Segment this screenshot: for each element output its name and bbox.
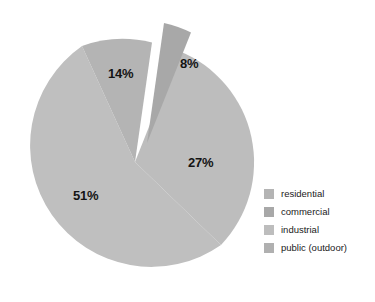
legend-swatch-icon: [264, 207, 274, 217]
legend-label-industrial: industrial: [281, 225, 319, 235]
legend-item-commercial[interactable]: commercial: [264, 203, 372, 221]
chart-legend: residential commercial industrial public…: [264, 185, 372, 257]
legend-label-public-outdoor: public (outdoor): [281, 243, 347, 253]
pie-label-residential: 14%: [108, 66, 133, 81]
pie-label-commercial: 8%: [180, 56, 198, 71]
legend-item-residential[interactable]: residential: [264, 185, 372, 203]
pie-label-industrial: 27%: [188, 155, 213, 170]
legend-label-commercial: commercial: [281, 207, 330, 217]
legend-label-residential: residential: [281, 189, 324, 199]
legend-item-industrial[interactable]: industrial: [264, 221, 372, 239]
legend-swatch-icon: [264, 225, 274, 235]
pie-chart: 14% 8% 27% 51% residential commercial in…: [0, 0, 375, 302]
pie-label-public-outdoor: 51%: [73, 188, 98, 203]
legend-item-public-outdoor[interactable]: public (outdoor): [264, 239, 372, 257]
legend-swatch-icon: [264, 243, 274, 253]
legend-swatch-icon: [264, 189, 274, 199]
